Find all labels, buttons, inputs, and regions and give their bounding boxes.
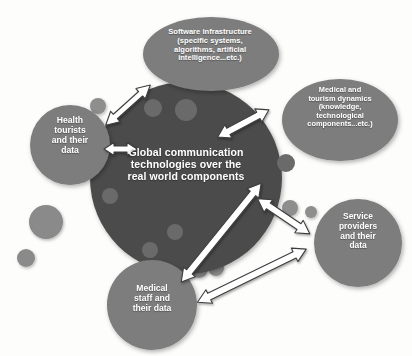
decor-dot: [142, 242, 158, 258]
diagram-canvas: Global communication technologies over t…: [0, 0, 412, 356]
decor-dot: [102, 188, 118, 204]
node-health-tourists-shape[interactable]: [30, 105, 110, 185]
decor-dot: [175, 99, 197, 121]
decor-dot: [167, 224, 183, 240]
decor-dot: [305, 206, 317, 218]
diagram-svg: [0, 0, 412, 356]
node-software-infrastructure-shape[interactable]: [143, 17, 279, 91]
node-service-providers-shape[interactable]: [314, 199, 402, 287]
node-medical-tourism-dynamics-shape[interactable]: [282, 79, 398, 161]
decor-dot: [90, 98, 106, 114]
decor-dot: [17, 249, 35, 267]
decor-dot: [277, 154, 295, 172]
decor-dot: [29, 205, 63, 239]
decor-dot: [144, 99, 162, 117]
